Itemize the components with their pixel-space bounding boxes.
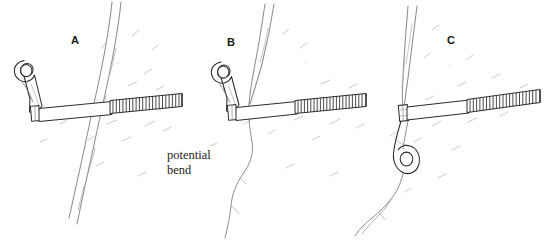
panel-label-a: A — [71, 34, 79, 46]
bolt-placement-illustration — [0, 0, 552, 243]
panel-label-c: C — [447, 34, 455, 46]
panel-label-b: B — [227, 36, 235, 48]
potential-bend-caption: potential bend — [167, 148, 211, 178]
